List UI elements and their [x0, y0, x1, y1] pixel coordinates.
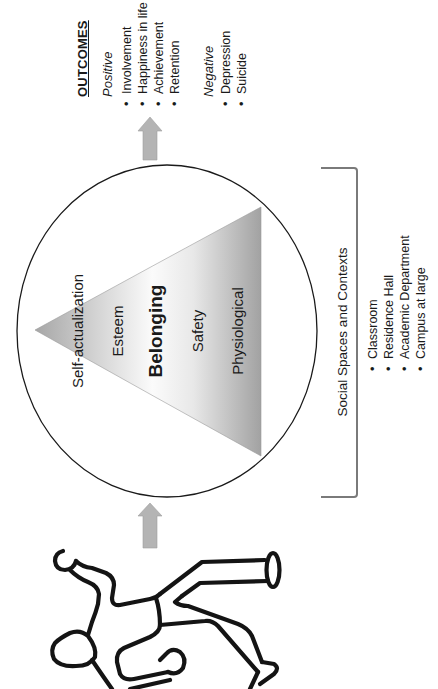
- outcomes-negative-label: Negative: [202, 46, 215, 97]
- pyramid-level-esteem: Esteem: [110, 306, 125, 357]
- pyramid-level-belonging: Belonging: [146, 285, 165, 378]
- outcome-item: Suicide: [235, 53, 249, 106]
- outcome-item: Achievement: [152, 22, 166, 106]
- social-context-item: Academic Department: [398, 235, 412, 371]
- social-context-item: Campus at large: [414, 267, 428, 371]
- outcome-item: Retention: [168, 40, 182, 106]
- social-contexts-title: Social Spaces and Contexts: [336, 248, 350, 417]
- belonging-diagram: OUTCOMES Positive Involvement Happiness …: [0, 0, 438, 689]
- outcomes-positive-label: Positive: [101, 51, 114, 97]
- person-figure-icon: [52, 551, 279, 689]
- outcome-item: Happiness in life: [136, 2, 150, 106]
- outcome-item: Involvement: [120, 27, 134, 106]
- arrow-up-icon: [138, 503, 162, 548]
- pyramid-level-self-actualization: Self-actualization: [70, 274, 85, 388]
- pyramid-level-physiological: Physiological: [230, 287, 245, 375]
- social-context-item: Residence Hall: [382, 275, 396, 371]
- arrow-up-icon: [138, 117, 162, 160]
- outcomes-title: OUTCOMES: [76, 20, 89, 97]
- outcome-item: Depression: [219, 31, 233, 106]
- pyramid-level-safety: Safety: [190, 310, 205, 353]
- social-context-item: Classroom: [366, 299, 380, 371]
